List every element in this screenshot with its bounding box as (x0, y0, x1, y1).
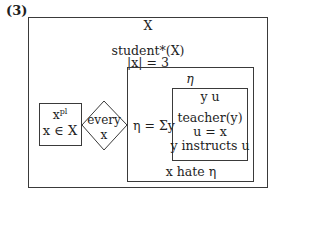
quantifier-variable: x (101, 128, 108, 142)
abstraction-expression: η = Σy (133, 119, 175, 133)
quantifier-word: every (87, 113, 121, 127)
inner-referents: y u (200, 90, 219, 104)
consequent-referent: η (186, 72, 194, 86)
inner-condition-teacher: teacher(y) (177, 111, 242, 125)
consequent-condition-hate: x hate η (166, 165, 216, 179)
inner-condition-instructs: y instructs u (170, 139, 249, 153)
inner-condition-equality: u = x (193, 125, 227, 139)
